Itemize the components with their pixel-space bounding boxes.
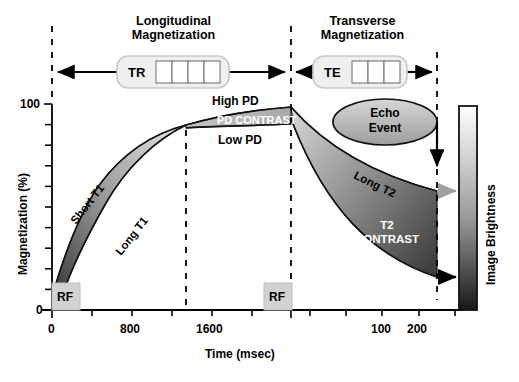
echo-event-label: Echo Event [334, 106, 436, 136]
y-axis-ticks [44, 104, 52, 310]
x-axis-ticks-left [52, 310, 291, 318]
low-pd-label: Low PD [218, 133, 262, 147]
transverse-header-line1: Transverse [299, 14, 426, 28]
pd-contrast-label: PD CONTRAST [217, 114, 296, 126]
longitudinal-header: Longitudinal Magnetization [110, 14, 237, 42]
x-tick-label-800: 800 [120, 322, 140, 336]
echo-event-line1: Echo [334, 106, 436, 121]
y-tick-label-100: 100 [20, 97, 40, 111]
x-tick-label-1600: 1600 [196, 322, 223, 336]
figure-canvas: Short T1 T1 CONTRAST Long T1 Long T2 Sho… [0, 0, 519, 382]
image-brightness-bar [459, 106, 477, 310]
y-axis-title: Magnetization (%) [16, 173, 30, 275]
t2-contrast-line1: T2 [342, 218, 432, 232]
transverse-header: Transverse Magnetization [299, 14, 426, 42]
short-t2-label: Short T2 [305, 219, 347, 260]
x-tick-label-200: 200 [407, 322, 427, 336]
longitudinal-header-line2: Magnetization [110, 28, 237, 42]
x-tick-label-100: 100 [371, 322, 391, 336]
high-pd-label: High PD [212, 94, 259, 108]
echo-event-line2: Event [334, 121, 436, 136]
y-tick-label-0: 0 [36, 303, 43, 317]
transverse-header-line2: Magnetization [299, 28, 426, 42]
long-t1-label: Long T1 [113, 214, 150, 257]
longitudinal-header-line1: Longitudinal [110, 14, 237, 28]
x-tick-label-0: 0 [48, 322, 55, 336]
rf-pulse-1-label: RF [57, 290, 73, 304]
tr-box-cells [156, 61, 220, 83]
tr-label: TR [128, 65, 145, 80]
te-label: TE [324, 65, 341, 80]
te-box-cells [352, 61, 400, 83]
mri-magnetization-diagram: Short T1 T1 CONTRAST Long T1 Long T2 Sho… [0, 0, 519, 382]
image-brightness-label: Image Brightness [484, 184, 498, 285]
t2-contrast-line2: CONTRAST [342, 232, 432, 246]
x-axis-title: Time (msec) [205, 347, 275, 361]
t2-contrast-label: T2 CONTRAST [342, 218, 432, 246]
rf-pulse-2-label: RF [269, 290, 285, 304]
